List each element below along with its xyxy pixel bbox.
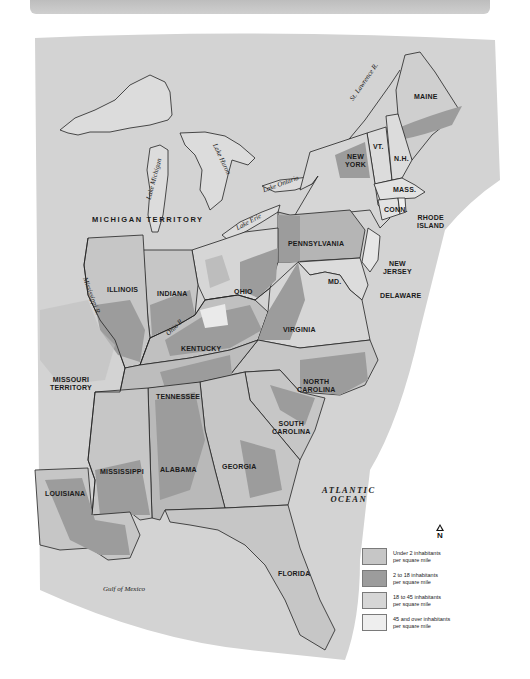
label-north-carolina: NORTH CAROLINA <box>297 378 336 394</box>
legend-item-18-to-45: 18 to 45 inhabitants per square mile <box>362 592 502 609</box>
label-rhode-island: RHODE ISLAND <box>417 214 444 230</box>
label-missouri-territory: MISSOURI TERRITORY <box>50 376 92 392</box>
legend-label: 18 to 45 inhabitants per square mile <box>393 594 441 607</box>
legend-swatch <box>362 592 387 609</box>
label-florida: FLORIDA <box>278 570 311 578</box>
label-vermont: VT. <box>373 143 384 151</box>
north-label: N <box>437 531 443 540</box>
legend-label: 45 and over inhabitants per square mile <box>393 616 450 629</box>
label-alabama: ALABAMA <box>160 466 197 474</box>
north-arrow-icon <box>436 524 444 531</box>
label-gulf-of-mexico: Gulf of Mexico <box>103 585 145 593</box>
legend-swatch <box>362 548 387 565</box>
legend-item-45-over: 45 and over inhabitants per square mile <box>362 614 502 631</box>
legend-swatch <box>362 570 387 587</box>
label-massachusetts: MASS. <box>393 186 416 194</box>
label-illinois: ILLINOIS <box>107 286 138 294</box>
label-michigan-territory: MICHIGAN TERRITORY <box>92 216 204 224</box>
label-ohio: OHIO <box>234 288 253 296</box>
label-virginia: VIRGINIA <box>283 326 316 334</box>
label-maine: MAINE <box>414 93 438 101</box>
label-connecticut: CONN. <box>384 206 408 214</box>
label-pennsylvania: PENNSYLVANIA <box>288 240 344 248</box>
label-atlantic-ocean: ATLANTIC OCEAN <box>322 486 376 504</box>
label-tennessee: TENNESSEE <box>156 393 200 401</box>
legend-label: 2 to 18 inhabitants per square mile <box>393 572 438 585</box>
legend-item-2-to-18: 2 to 18 inhabitants per square mile <box>362 570 502 587</box>
label-maryland: MD. <box>328 278 341 286</box>
label-new-hampshire: N.H. <box>394 155 409 163</box>
legend-item-under-2: Under 2 inhabitants per square mile <box>362 548 502 565</box>
label-louisiana: LOUISIANA <box>45 490 85 498</box>
label-delaware: DELAWARE <box>380 292 421 300</box>
legend: Under 2 inhabitants per square mile 2 to… <box>362 548 502 636</box>
legend-swatch <box>362 614 387 631</box>
north-compass: N <box>436 524 444 540</box>
label-kentucky: KENTUCKY <box>181 345 222 353</box>
label-georgia: GEORGIA <box>222 463 256 471</box>
label-new-jersey: NEW JERSEY <box>383 260 412 276</box>
label-new-york: NEW YORK <box>345 153 366 169</box>
label-indiana: INDIANA <box>157 290 188 298</box>
label-mississippi: MISSISSIPPI <box>100 468 144 476</box>
label-south-carolina: SOUTH CAROLINA <box>272 420 311 436</box>
legend-label: Under 2 inhabitants per square mile <box>393 550 441 563</box>
